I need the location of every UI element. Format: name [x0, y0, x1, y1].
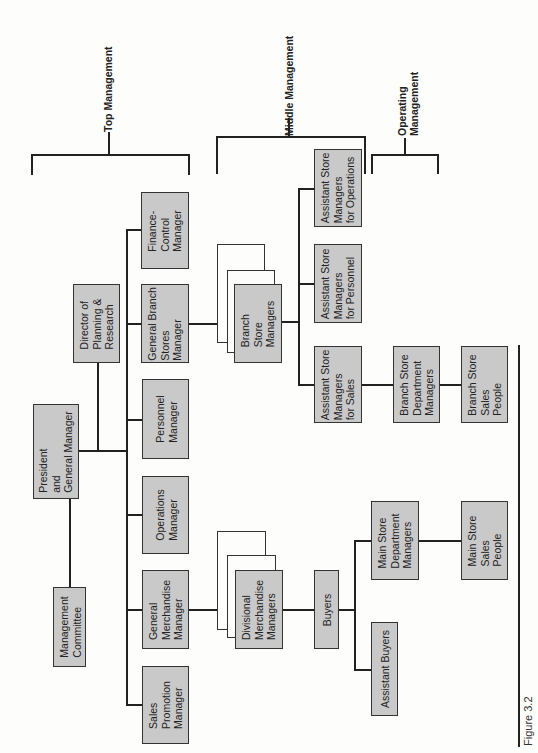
connector — [126, 229, 128, 705]
node-director-planning: Director of Planning & Research — [73, 284, 120, 363]
node-branch-sales-people: Branch Store Sales People — [461, 346, 508, 423]
tier-label-top: Top Management — [102, 46, 114, 132]
node-president: President and General Manager — [33, 404, 79, 499]
node-branch-store-managers: Branch Store Managers — [234, 284, 282, 363]
tier-label-middle: Middle Management — [283, 36, 295, 136]
node-finance-control: Finance- Control Manager — [141, 192, 189, 269]
connector — [69, 498, 71, 587]
connector — [126, 609, 142, 611]
connector — [126, 704, 142, 706]
node-main-store-sales-people: Main Store Sales People — [461, 501, 508, 580]
connector — [126, 229, 142, 231]
node-asm-operations: Assistant Store Managers for Operations — [314, 149, 362, 227]
connector — [361, 384, 393, 386]
connector — [439, 384, 461, 386]
connector — [126, 419, 142, 421]
node-operations: Operations Manager — [142, 476, 189, 554]
node-divisional-merchandise: Divisional Merchandise Managers — [235, 570, 283, 649]
node-asm-personnel: Assistant Store Managers for Personnel — [314, 244, 362, 323]
tier-label-operating: Operating Management — [396, 72, 420, 136]
connector — [338, 609, 355, 611]
connector — [298, 188, 300, 385]
connector — [97, 362, 99, 451]
connector — [282, 609, 314, 611]
node-sales-promotion: Sales Promotion Manager — [142, 666, 189, 744]
node-general-merchandise: General Merchandise Manager — [142, 570, 189, 649]
connector — [126, 323, 142, 325]
node-branch-dept-managers: Branch Store Department Managers — [393, 346, 440, 423]
node-personnel: Personnel Manager — [142, 379, 189, 459]
connector — [126, 514, 142, 516]
connector — [298, 384, 314, 386]
figure-rule — [518, 345, 520, 747]
connector — [354, 540, 371, 542]
node-management-committee: Management Committee — [53, 587, 86, 667]
node-asm-sales: Assistant Store Managers for Sales — [314, 346, 362, 423]
node-general-branch-stores: General Branch Stores Manager — [141, 284, 189, 363]
connector — [298, 283, 314, 285]
node-assistant-buyers: Assistant Buyers — [371, 622, 398, 716]
connector — [282, 321, 299, 323]
connector — [79, 450, 127, 452]
node-buyers: Buyers — [314, 570, 339, 649]
connector — [418, 540, 461, 542]
node-main-store-dept-managers: Main Store Department Managers — [371, 501, 419, 580]
connector — [354, 540, 356, 670]
figure-caption: Figure 3.2 — [522, 696, 534, 746]
connector — [354, 669, 371, 671]
connector — [298, 188, 314, 190]
